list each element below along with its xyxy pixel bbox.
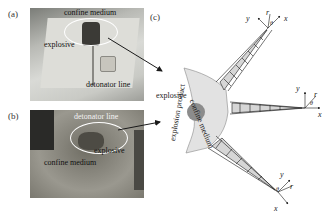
crack-middle — [230, 92, 320, 114]
axis-x-top: x — [284, 14, 288, 23]
pointer-arrow-b — [118, 122, 160, 130]
axis-theta-middle: θ — [310, 100, 313, 106]
axis-r-bottom: r — [290, 182, 293, 191]
axis-theta-bottom: θ — [276, 186, 279, 192]
axis-r-middle: r — [314, 90, 317, 99]
axis-y-middle: y — [296, 84, 300, 93]
axis-x-bottom: x — [274, 204, 278, 213]
axis-r-top: r — [266, 8, 269, 17]
axis-y-top: y — [246, 14, 250, 23]
diagram-c — [0, 0, 333, 217]
axis-x-middle: x — [318, 110, 322, 119]
pointer-arrow-a — [108, 38, 162, 71]
axis-theta-top: θ — [270, 20, 273, 26]
axis-y-bottom: y — [280, 170, 284, 179]
